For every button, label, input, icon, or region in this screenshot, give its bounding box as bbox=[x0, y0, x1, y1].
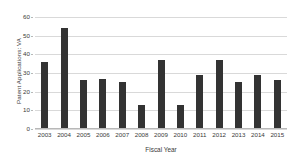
y-tick-mark bbox=[31, 17, 33, 18]
y-tick-mark bbox=[31, 92, 33, 93]
y-tick-mark bbox=[31, 73, 33, 74]
x-tick-label: 2013 bbox=[229, 131, 248, 139]
x-tick-label: 2015 bbox=[268, 131, 287, 139]
x-axis-ticks: 2003200420052006200720082009201020112012… bbox=[35, 131, 287, 143]
bar bbox=[138, 105, 145, 129]
x-axis-title: Fiscal Year bbox=[35, 146, 287, 154]
x-tick-label: 2004 bbox=[54, 131, 73, 139]
y-tick-label: 40 bbox=[23, 51, 30, 57]
x-tick-label: 2008 bbox=[132, 131, 151, 139]
y-tick-label: 60 bbox=[23, 14, 30, 20]
bar bbox=[196, 75, 203, 129]
bar bbox=[177, 105, 184, 129]
bar bbox=[119, 82, 126, 129]
bar bbox=[216, 60, 223, 129]
y-axis-ticks: 0102030405060 bbox=[0, 17, 33, 129]
bar bbox=[80, 80, 87, 129]
y-tick-label: 10 bbox=[23, 107, 30, 113]
y-tick-label: 20 bbox=[23, 89, 30, 95]
x-tick-label: 2007 bbox=[113, 131, 132, 139]
y-tick-mark bbox=[31, 36, 33, 37]
y-tick-mark bbox=[31, 54, 33, 55]
y-tick-label: 30 bbox=[23, 70, 30, 76]
y-tick-mark bbox=[31, 110, 33, 111]
y-tick-label: 0 bbox=[27, 126, 30, 132]
bar bbox=[41, 62, 48, 129]
plot-area bbox=[35, 17, 287, 129]
bar-chart: Patent Applications: VA 0102030405060 20… bbox=[0, 0, 295, 159]
x-tick-label: 2011 bbox=[190, 131, 209, 139]
x-tick-label: 2003 bbox=[35, 131, 54, 139]
bar bbox=[99, 79, 106, 129]
x-tick-label: 2014 bbox=[248, 131, 267, 139]
x-tick-label: 2012 bbox=[209, 131, 228, 139]
bar bbox=[158, 60, 165, 129]
bar bbox=[274, 80, 281, 129]
x-tick-label: 2010 bbox=[171, 131, 190, 139]
bar bbox=[235, 82, 242, 129]
gridline bbox=[35, 129, 287, 130]
y-tick-mark bbox=[31, 129, 33, 130]
bar-series bbox=[35, 17, 287, 129]
x-tick-label: 2006 bbox=[93, 131, 112, 139]
bar bbox=[254, 75, 261, 129]
y-tick-label: 50 bbox=[23, 33, 30, 39]
bar bbox=[61, 28, 68, 129]
x-tick-label: 2009 bbox=[151, 131, 170, 139]
x-tick-label: 2005 bbox=[74, 131, 93, 139]
x-axis-line bbox=[35, 128, 287, 129]
